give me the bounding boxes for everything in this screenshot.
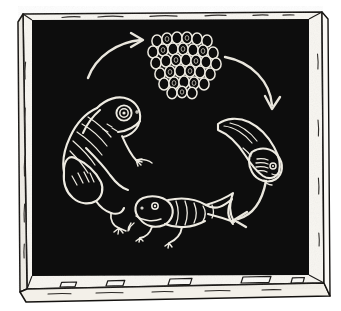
chalkboard-illustration — [0, 0, 341, 311]
chalk-piece — [291, 278, 304, 284]
chalk-piece — [241, 276, 271, 283]
chalk-piece — [106, 280, 125, 286]
chalk-piece — [60, 282, 77, 287]
frog-life-cycle-svg — [0, 0, 341, 311]
frame-right-bevel — [322, 12, 330, 296]
chalk-piece — [168, 278, 192, 285]
